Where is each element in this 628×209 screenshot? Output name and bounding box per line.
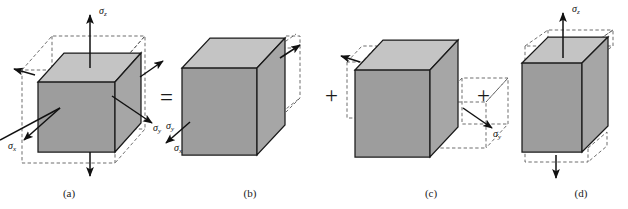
sigma-subscript: y xyxy=(158,127,161,135)
label-sigma-y-panel-b: σy xyxy=(166,120,174,133)
panel-b-group xyxy=(166,34,300,155)
label-sigma-y-panel-c: σy xyxy=(493,128,501,141)
operator-equals: = xyxy=(160,86,173,109)
panel-b-cube-front xyxy=(182,68,257,155)
caption-panel-b: (b) xyxy=(230,187,270,199)
label-sigma-z-panel-d: σz xyxy=(572,3,580,16)
sigma-subscript: y xyxy=(498,133,501,141)
sigma-subscript: x xyxy=(13,145,16,153)
label-sigma-x-panel-b: σx xyxy=(174,142,182,155)
panel-d-cube-front xyxy=(522,63,582,152)
panel-d-group xyxy=(522,13,613,178)
sigma-subscript: z xyxy=(577,8,580,16)
sigma-subscript: z xyxy=(104,10,107,18)
panel-c-cube-front xyxy=(355,70,430,157)
operator-plus-2: + xyxy=(477,84,490,107)
operator-plus-1: + xyxy=(325,84,338,107)
panel-c-sigma-y-arrow-far xyxy=(341,56,360,62)
sigma-subscript: x xyxy=(179,147,182,155)
caption-panel-a: (a) xyxy=(49,187,89,199)
label-sigma-y-panel-a: σy xyxy=(153,122,161,135)
panel-a-group xyxy=(0,15,163,176)
caption-panel-d: (d) xyxy=(561,187,601,199)
figure-canvas xyxy=(0,0,628,209)
panel-c-sigma-y-arrow xyxy=(463,108,492,128)
label-sigma-z-panel-a: σz xyxy=(99,5,107,18)
stress-superposition-figure: = + + σz σy σx σy σx σy σz (a) (b) (c) (… xyxy=(0,0,628,209)
caption-panel-c: (c) xyxy=(411,187,451,199)
panel-a-sigma-y-arrow-far xyxy=(140,61,163,77)
label-sigma-x-panel-a: σx xyxy=(8,140,16,153)
sigma-subscript: y xyxy=(171,125,174,133)
